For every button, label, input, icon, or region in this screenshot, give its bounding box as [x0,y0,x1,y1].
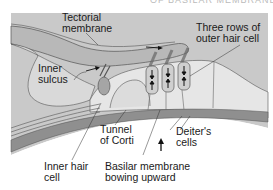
label-deiters-cells: Deiter's cells [176,126,211,148]
label-inner-sulcus: Inner sulcus [38,63,68,85]
label-outer-hair-cells: Three rows of outer hair cell [196,22,260,44]
label-basilar-membrane: Basilar membrane bowing upward [105,161,190,183]
label-tectorial-membrane: Tectorial membrane [62,12,112,34]
cochlea-diagram: OF BASILAR MEMBRANE [0,0,273,190]
label-inner-hair-cell: Inner hair cell [44,161,88,183]
label-tunnel-of-corti: Tunnel of Corti [100,124,134,146]
inner-hair-cell [98,77,110,95]
